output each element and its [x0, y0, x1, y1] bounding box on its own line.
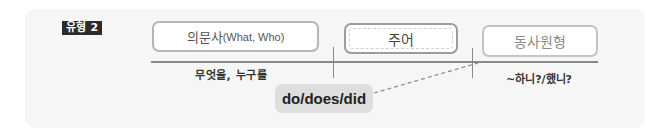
subject-label: 주어 [388, 29, 414, 49]
wh-question-korean: 의문사 [187, 27, 223, 46]
auxiliary-label: do/does/did [282, 90, 366, 107]
divider-tick-2 [472, 48, 473, 78]
baseline-divider [151, 61, 598, 63]
wh-question-box: 의문사(What, Who) [152, 21, 319, 52]
type-tag: 유형 2 [62, 21, 102, 35]
base-verb-box: 동사원형 [482, 25, 598, 57]
wh-meaning-label: 무엇을, 누구를 [195, 66, 267, 82]
wh-question-english: (What, Who) [223, 31, 285, 43]
subject-box: 주어 [344, 23, 458, 54]
divider-tick-1 [333, 47, 334, 78]
base-verb-label: 동사원형 [514, 31, 566, 51]
auxiliary-box: do/does/did [275, 84, 373, 113]
verb-meaning-label: ~하니?/했니? [506, 70, 572, 86]
